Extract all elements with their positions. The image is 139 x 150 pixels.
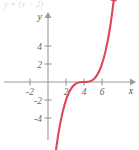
cubic-curve bbox=[53, 0, 114, 150]
x-axis-label: x bbox=[128, 85, 134, 96]
figure-caption-fragment: y = (x − 2) bbox=[0, 0, 139, 9]
x-ticklabel-3: 6 bbox=[100, 87, 105, 97]
x-ticklabel-2: 4 bbox=[82, 87, 87, 97]
y-axis-arrow-icon bbox=[45, 12, 52, 18]
y-ticklabel-1: 2 bbox=[37, 60, 42, 70]
y-ticklabel-3: -4 bbox=[34, 114, 42, 124]
x-ticklabel-0: -2 bbox=[26, 87, 34, 97]
y-axis-label: y bbox=[37, 11, 43, 22]
cubic-function-figure: y = (x − 2) -2 2 4 6 4 2 -2 -4 y x bbox=[0, 0, 139, 150]
y-ticklabel-0: 4 bbox=[37, 42, 42, 52]
graph-canvas: -2 2 4 6 4 2 -2 -4 y x bbox=[0, 0, 139, 150]
y-ticklabel-2: -2 bbox=[34, 96, 42, 106]
